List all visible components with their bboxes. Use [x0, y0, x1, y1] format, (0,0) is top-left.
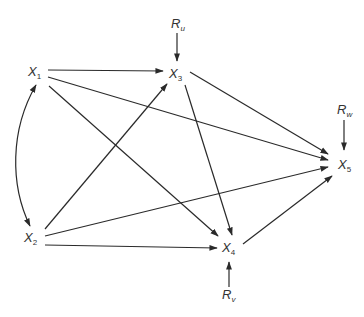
node-x5: X5: [337, 157, 352, 174]
edge-x2-x5: [45, 167, 328, 236]
node-x3: X3: [168, 66, 183, 83]
node-rv: Rv: [222, 287, 236, 304]
edge-x3-x5: [190, 72, 328, 154]
edge-x2-x4: [45, 245, 217, 248]
edge-x4-x5: [243, 176, 332, 244]
node-rw: Rw: [337, 102, 353, 119]
path-diagram: X1 X2 X3 X4 X5 Ru Rv Rw: [0, 0, 364, 317]
node-ru: Ru: [171, 16, 185, 33]
node-x1: X1: [27, 64, 42, 81]
edge-x1-x3: [48, 70, 163, 71]
node-x4: X4: [221, 240, 236, 257]
edge-x2-x3: [45, 84, 167, 229]
edge-x1-x2-covariance: [16, 85, 36, 226]
node-x2: X2: [23, 230, 38, 247]
edge-x1-x5: [48, 77, 328, 160]
